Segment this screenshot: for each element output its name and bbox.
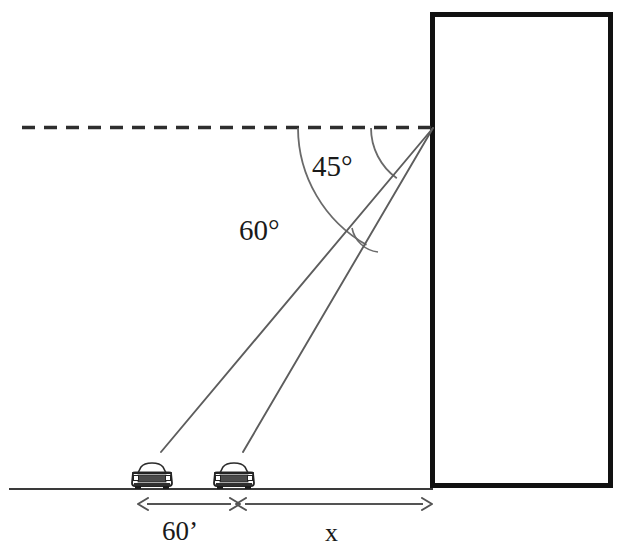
- distance-label-60-feet: 60’: [162, 518, 198, 545]
- sight-line-60-degrees: [161, 128, 433, 452]
- angle-arc-45: [371, 128, 397, 178]
- angle-arc-60-tick: [352, 228, 378, 252]
- angle-arc-60: [298, 128, 367, 245]
- angle-of-depression-figure: [0, 0, 626, 554]
- car-near: [214, 463, 254, 489]
- building-rectangle: [433, 15, 611, 486]
- angle-label-60: 60°: [239, 216, 280, 245]
- distance-label-x: x: [325, 520, 338, 546]
- diagram-canvas: 45° 60° 60’ x: [0, 0, 626, 554]
- car-far: [132, 463, 172, 489]
- angle-label-45: 45°: [312, 152, 353, 181]
